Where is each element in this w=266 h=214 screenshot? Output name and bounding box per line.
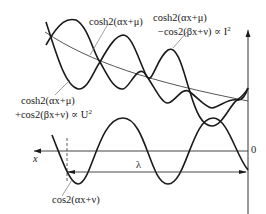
leader-top-envelope — [90, 24, 108, 55]
cosh-decay-curve — [45, 32, 248, 101]
label-difference-text: −cos2(βx+ν) ∝ I — [158, 26, 227, 37]
label-sum-line2: +cos2(βx+ν) ∝ U2 — [15, 107, 92, 120]
label-bottom-wave: cos2(αx+ν) — [52, 194, 100, 205]
leader-sum — [55, 80, 70, 95]
label-difference-line1: cosh2(αx+μ) — [153, 12, 207, 23]
label-difference-line2: −cos2(βx+ν) ∝ I2 — [158, 24, 231, 37]
label-sum-text: +cos2(βx+ν) ∝ U — [15, 109, 88, 120]
label-difference-exp: 2 — [227, 25, 231, 33]
label-top-envelope: cosh2(αx+μ) — [89, 16, 143, 27]
label-sum-exp: 2 — [88, 108, 92, 116]
wavelength-arrow-right — [239, 170, 247, 174]
label-origin: 0 — [251, 144, 256, 155]
label-x-axis: x — [33, 153, 38, 164]
label-sum-line1: cosh2(αx+μ) — [21, 95, 75, 106]
label-wavelength: λ — [136, 159, 141, 170]
